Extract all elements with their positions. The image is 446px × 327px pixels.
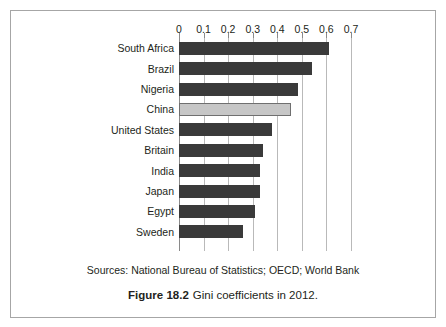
bar-nigeria [179,83,298,96]
bar-britain [179,144,263,157]
bar-sweden [179,225,243,238]
category-label-india: India [151,165,174,177]
category-label-nigeria: Nigeria [141,83,174,95]
figure-title: Gini coefficients in 2012. [193,289,318,301]
bar-row: Egypt [179,201,351,221]
bar-brazil [179,62,312,75]
x-tickmark-7 [351,33,352,38]
bar-united-states [179,123,272,136]
plot-area: South AfricaBrazilNigeriaChinaUnited Sta… [179,38,351,251]
bar-china [179,103,291,116]
category-label-britain: Britain [144,144,174,156]
x-axis-tick-labels: 00.10.20.30.40.50.60.7 [11,23,437,37]
bar-rows: South AfricaBrazilNigeriaChinaUnited Sta… [179,38,351,242]
category-label-china: China [147,103,174,115]
figure-number: Figure 18.2 [128,289,189,301]
gridline-7 [351,38,352,251]
bar-egypt [179,205,255,218]
bar-row: India [179,160,351,180]
bar-row: Britain [179,140,351,160]
category-label-japan: Japan [145,185,174,197]
bar-south-africa [179,42,329,55]
bar-japan [179,185,260,198]
category-label-united-states: United States [111,124,174,136]
category-label-south-africa: South Africa [117,42,174,54]
figure-box: 00.10.20.30.40.50.60.7 South AfricaBrazi… [10,10,436,318]
category-label-egypt: Egypt [147,205,174,217]
sources-note: Sources: National Bureau of Statistics; … [11,263,435,277]
bar-row: Sweden [179,222,351,242]
figure-caption: Figure 18.2Gini coefficients in 2012. [11,288,435,303]
bar-row: Japan [179,181,351,201]
bar-row: China [179,99,351,119]
bar-row: United States [179,120,351,140]
category-label-sweden: Sweden [136,226,174,238]
category-label-brazil: Brazil [148,63,174,75]
bar-row: Brazil [179,58,351,78]
bar-row: Nigeria [179,79,351,99]
bar-chart: 00.10.20.30.40.50.60.7 South AfricaBrazi… [11,11,437,261]
bar-india [179,164,260,177]
bar-row: South Africa [179,38,351,58]
